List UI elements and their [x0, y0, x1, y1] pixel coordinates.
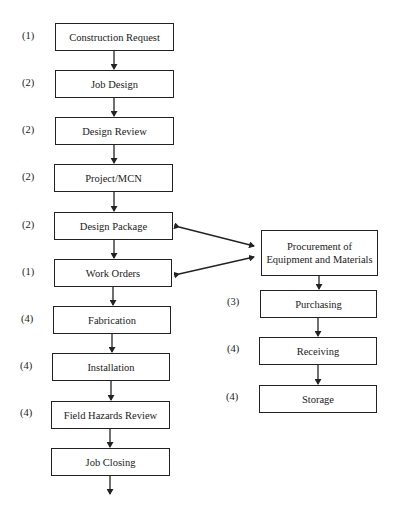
- box-fabrication: Fabrication: [53, 306, 171, 334]
- box-label: Design Review: [82, 125, 146, 138]
- box-field-hazards-review: Field Hazards Review: [51, 401, 170, 429]
- box-label: Construction Request: [69, 31, 160, 44]
- box-label: Fabrication: [88, 314, 136, 327]
- step-number: (4): [20, 407, 32, 418]
- step-number: (4): [21, 313, 33, 324]
- step-number: (2): [22, 171, 34, 182]
- step-number: (2): [22, 219, 34, 230]
- box-label: Storage: [302, 393, 334, 406]
- step-number: (1): [22, 30, 34, 41]
- step-number: (1): [22, 266, 34, 277]
- box-job-closing: Job Closing: [51, 448, 170, 476]
- box-project-mcn: Project/MCN: [54, 164, 173, 192]
- box-design-package: Design Package: [54, 212, 173, 240]
- box-label: Job Closing: [86, 456, 136, 469]
- box-purchasing: Purchasing: [260, 290, 377, 318]
- box-label: Work Orders: [86, 267, 140, 280]
- step-number: (2): [22, 77, 34, 88]
- box-label: Project/MCN: [85, 172, 142, 185]
- box-design-review: Design Review: [55, 117, 174, 145]
- step-number: (3): [227, 296, 239, 307]
- box-installation: Installation: [52, 353, 170, 381]
- box-label: Design Package: [80, 220, 147, 233]
- box-label: Purchasing: [295, 298, 342, 311]
- box-storage: Storage: [259, 385, 377, 413]
- box-work-orders: Work Orders: [54, 259, 172, 287]
- box-label: Receiving: [297, 345, 340, 358]
- step-number: (4): [227, 343, 239, 354]
- box-receiving: Receiving: [259, 337, 377, 365]
- box-procurement: Procurement of Equipment and Materials: [261, 230, 378, 276]
- step-number: (4): [226, 391, 238, 402]
- box-job-design: Job Design: [55, 70, 174, 98]
- box-label: Installation: [87, 361, 134, 374]
- box-label: Job Design: [91, 78, 138, 91]
- box-label: Field Hazards Review: [64, 409, 157, 422]
- box-label-line1: Procurement of: [287, 240, 352, 253]
- box-label-line2: Equipment and Materials: [266, 253, 372, 266]
- step-number: (4): [20, 360, 32, 371]
- step-number: (2): [22, 124, 34, 135]
- box-construction-request: Construction Request: [55, 23, 174, 51]
